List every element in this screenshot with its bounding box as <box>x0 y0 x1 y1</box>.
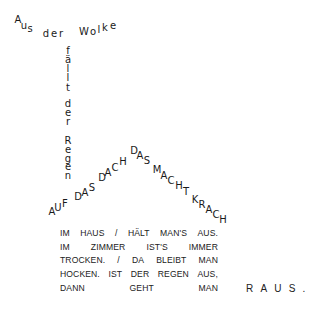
roof-glyph: C <box>112 163 119 173</box>
roof-glyph: A <box>105 168 112 178</box>
house-word: IST <box>108 268 122 282</box>
house-word: DANN <box>60 282 85 296</box>
roof-glyph: T <box>183 187 189 197</box>
house-word: DA <box>132 254 144 268</box>
house-word: MAN'S <box>160 227 187 241</box>
house-text-line: IMZIMMERIST'SIMMER <box>60 241 218 255</box>
cloud-line-glyph: e <box>110 21 116 31</box>
cloud-line-glyph: e <box>51 29 57 39</box>
raus-word: RAUS. <box>246 282 313 295</box>
house-word: / <box>115 227 118 241</box>
rain-column-glyph: n <box>65 171 71 181</box>
roof-glyph: A <box>206 205 213 215</box>
house-word: BLEIBT <box>156 254 186 268</box>
house-word: HAUS <box>80 227 104 241</box>
cloud-line-glyph: l <box>98 25 101 35</box>
roof-glyph: K <box>192 195 199 205</box>
roof-glyph: S <box>144 156 150 166</box>
house-word: IST'S <box>146 241 167 255</box>
house-word: HÄLT <box>128 227 150 241</box>
house-word: GEHT <box>130 282 154 296</box>
cloud-line-glyph: r <box>59 29 63 39</box>
house-word: IMMER <box>189 241 218 255</box>
house-text-line: IMHAUS/HÄLTMAN'SAUS. <box>60 227 218 241</box>
house-word: IM <box>60 227 70 241</box>
rain-column-glyph: t <box>66 83 70 93</box>
house-word: REGEN <box>158 268 189 282</box>
house-word: MAN <box>199 282 218 296</box>
house-word: HOCKEN. <box>60 268 100 282</box>
house-word: ZIMMER <box>91 241 126 255</box>
roof-glyph: H <box>219 215 227 225</box>
house-word: DER <box>131 268 149 282</box>
cloud-line-glyph: s <box>27 24 32 34</box>
house-text-line: HOCKEN.ISTDERREGENAUS, <box>60 268 218 282</box>
roof-glyph: H <box>119 157 127 167</box>
roof-glyph: F <box>62 199 68 209</box>
cloud-line-glyph: o <box>90 27 96 37</box>
cloud-line-glyph: d <box>43 29 49 39</box>
house-text-line: DANNGEHTMAN <box>60 282 218 296</box>
roof-glyph: C <box>168 176 175 186</box>
rain-column-glyph: r <box>66 117 70 127</box>
roof-glyph: U <box>54 203 61 213</box>
house-text-block: IMHAUS/HÄLTMAN'SAUS.IMZIMMERIST'SIMMERTR… <box>60 227 218 295</box>
cloud-line-glyph: W <box>79 27 89 37</box>
roof-glyph: H <box>175 181 183 191</box>
cloud-line-glyph: u <box>21 21 27 31</box>
house-word: TROCKEN. <box>60 254 105 268</box>
house-word: MAN <box>199 254 218 268</box>
roof-glyph: S <box>89 183 95 193</box>
house-word: / <box>117 254 120 268</box>
roof-glyph: A <box>82 188 89 198</box>
house-word: AUS, <box>197 268 217 282</box>
roof-glyph: A <box>137 151 144 161</box>
roof-glyph: R <box>199 200 206 210</box>
house-text-line: TROCKEN./DABLEIBTMAN <box>60 254 218 268</box>
roof-glyph: A <box>161 171 168 181</box>
house-word: AUS. <box>198 227 218 241</box>
house-word: IM <box>60 241 70 255</box>
cloud-line-glyph: k <box>102 23 108 33</box>
